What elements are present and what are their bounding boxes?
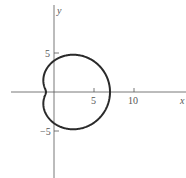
polar-plot: 5 10 5 −5 x y	[0, 0, 186, 178]
y-tick-label-neg5: −5	[40, 126, 51, 137]
y-axis-label: y	[56, 5, 62, 16]
x-axis-label: x	[179, 95, 185, 106]
y-tick-label-5: 5	[45, 48, 50, 59]
x-tick-label-10: 10	[128, 95, 138, 106]
x-tick-label-5: 5	[91, 95, 96, 106]
